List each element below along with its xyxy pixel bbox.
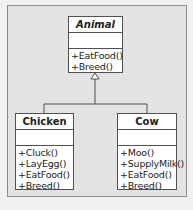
- operation: +Breed(): [120, 180, 176, 191]
- operation: +Breed(): [18, 180, 73, 191]
- operation: +Breed(): [71, 61, 122, 72]
- operation: +EatFood(): [120, 169, 176, 180]
- attributes-compartment: [16, 130, 73, 146]
- operations-compartment: +Moo() +SupplyMilk() +EatFood() +Breed(): [118, 146, 176, 191]
- operation: +EatFood(): [18, 169, 73, 180]
- class-box-cow[interactable]: Cow +Moo() +SupplyMilk() +EatFood() +Bre…: [117, 113, 177, 190]
- operation: +EatFood(): [71, 50, 122, 61]
- operation: +Cluck(): [18, 147, 73, 158]
- operations-compartment: +Cluck() +LayEgg() +EatFood() +Breed(): [16, 146, 73, 191]
- operations-compartment: +EatFood() +Breed(): [69, 49, 122, 72]
- attributes-compartment: [118, 130, 176, 146]
- operation: +SupplyMilk(): [120, 158, 176, 169]
- attributes-compartment: [69, 33, 122, 49]
- operation: +Moo(): [120, 147, 176, 158]
- class-box-chicken[interactable]: Chicken +Cluck() +LayEgg() +EatFood() +B…: [15, 113, 74, 190]
- class-name: Cow: [118, 114, 176, 130]
- operation: +LayEgg(): [18, 158, 73, 169]
- class-name: Chicken: [16, 114, 73, 130]
- class-name: Animal: [69, 17, 122, 33]
- class-box-animal[interactable]: Animal +EatFood() +Breed(): [68, 16, 123, 73]
